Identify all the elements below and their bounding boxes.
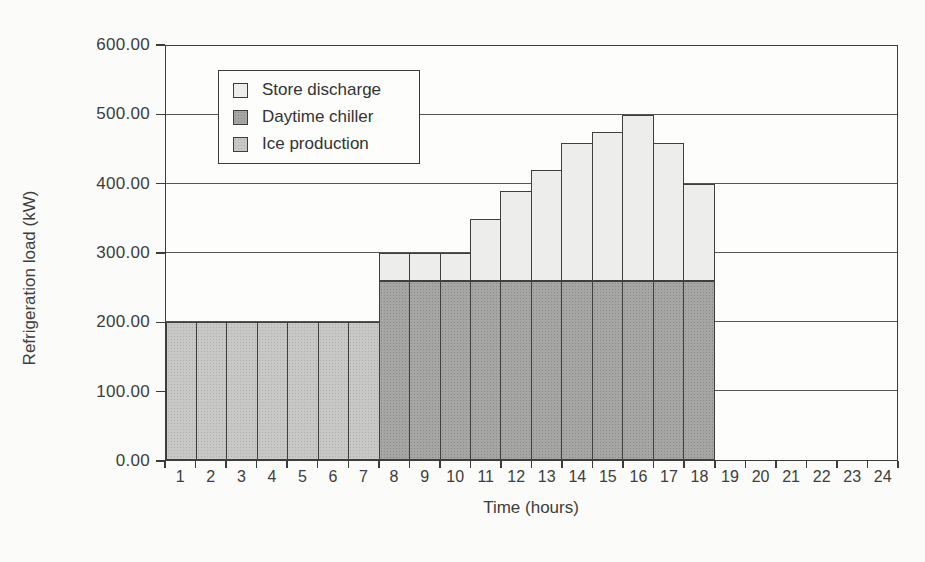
x-tick-18 — [714, 461, 716, 468]
x-tick-7 — [378, 461, 380, 468]
legend-label: Store discharge — [262, 80, 381, 100]
bar-hour-20 — [745, 46, 775, 460]
bar-segment-daytime-chiller — [409, 281, 440, 460]
x-tick-label-5: 5 — [298, 468, 307, 486]
bar-hour-18 — [684, 46, 714, 460]
bar-segment-daytime-chiller — [531, 281, 562, 460]
y-tick-100 — [156, 391, 165, 393]
x-tick-4 — [286, 461, 288, 468]
x-tick-label-14: 14 — [568, 468, 586, 486]
x-tick-label-17: 17 — [660, 468, 678, 486]
x-tick-label-13: 13 — [538, 468, 556, 486]
store-discharge-swatch-icon — [233, 83, 248, 98]
x-tick-2 — [225, 461, 227, 468]
bar-segment-ice-production — [287, 322, 318, 460]
bar-hour-11 — [471, 46, 501, 460]
bar-hour-1 — [166, 46, 196, 460]
y-tick-500 — [156, 114, 165, 116]
y-tick-label-100: 100.00 — [96, 382, 150, 402]
legend-item-daytime-chiller: Daytime chiller — [233, 107, 409, 127]
bar-segment-daytime-chiller — [561, 281, 592, 460]
bar-segment-ice-production — [196, 322, 227, 460]
x-tick-label-15: 15 — [599, 468, 617, 486]
x-tick-24 — [897, 461, 899, 468]
bar-segment-store-discharge — [653, 143, 684, 281]
x-tick-3 — [256, 461, 258, 468]
bar-segment-daytime-chiller — [622, 281, 653, 460]
x-tick-label-9: 9 — [420, 468, 429, 486]
x-tick-label-22: 22 — [813, 468, 831, 486]
bar-segment-store-discharge — [379, 253, 410, 281]
bar-hour-15 — [592, 46, 622, 460]
bar-segment-store-discharge — [440, 253, 471, 281]
bar-segment-daytime-chiller — [440, 281, 471, 460]
y-tick-label-200: 200.00 — [96, 312, 150, 332]
x-tick-label-1: 1 — [176, 468, 185, 486]
x-tick-17 — [683, 461, 685, 468]
y-axis-title: Refrigeration load (kW) — [20, 191, 40, 366]
y-tick-label-500: 500.00 — [96, 104, 150, 124]
bar-segment-ice-production — [226, 322, 257, 460]
bar-hour-19 — [714, 46, 744, 460]
x-tick-label-3: 3 — [237, 468, 246, 486]
y-tick-300 — [156, 252, 165, 254]
x-tick-label-4: 4 — [267, 468, 276, 486]
legend-item-ice-production: Ice production — [233, 134, 409, 154]
x-tick-label-11: 11 — [477, 468, 494, 486]
x-tick-label-2: 2 — [206, 468, 215, 486]
bar-hour-24 — [866, 46, 896, 460]
x-axis-title: Time (hours) — [483, 498, 579, 518]
y-tick-label-600: 600.00 — [96, 35, 150, 55]
bar-segment-ice-production — [166, 322, 197, 460]
bar-segment-daytime-chiller — [592, 281, 623, 460]
x-tick-label-6: 6 — [329, 468, 338, 486]
legend-item-store-discharge: Store discharge — [233, 80, 409, 100]
x-tick-6 — [348, 461, 350, 468]
bar-segment-store-discharge — [531, 170, 562, 280]
x-tick-22 — [836, 461, 838, 468]
bar-hour-21 — [775, 46, 805, 460]
bar-segment-store-discharge — [622, 115, 653, 281]
bar-hour-22 — [806, 46, 836, 460]
x-tick-8 — [409, 461, 411, 468]
x-tick-5 — [317, 461, 319, 468]
x-tick-label-24: 24 — [874, 468, 892, 486]
bar-segment-daytime-chiller — [500, 281, 531, 460]
y-tick-600 — [156, 44, 165, 46]
x-tick-label-7: 7 — [359, 468, 368, 486]
bar-segment-daytime-chiller — [653, 281, 684, 460]
bar-hour-23 — [836, 46, 866, 460]
bar-segment-ice-production — [348, 322, 379, 460]
x-tick-label-20: 20 — [752, 468, 770, 486]
legend-label: Daytime chiller — [262, 107, 373, 127]
daytime-chiller-swatch-icon — [233, 110, 248, 125]
x-tick-23 — [867, 461, 869, 468]
bar-hour-14 — [562, 46, 592, 460]
x-tick-1 — [195, 461, 197, 468]
x-tick-label-23: 23 — [843, 468, 861, 486]
bar-hour-13 — [531, 46, 561, 460]
x-tick-label-19: 19 — [721, 468, 739, 486]
y-tick-400 — [156, 183, 165, 185]
bar-segment-ice-production — [318, 322, 349, 460]
x-tick-10 — [470, 461, 472, 468]
bar-segment-daytime-chiller — [470, 281, 501, 460]
bar-segment-store-discharge — [561, 143, 592, 281]
x-tick-21 — [806, 461, 808, 468]
bar-segment-daytime-chiller — [379, 281, 410, 460]
y-tick-label-0: 0.00 — [116, 451, 150, 471]
x-tick-label-16: 16 — [629, 468, 647, 486]
x-tick-12 — [531, 461, 533, 468]
bar-segment-ice-production — [257, 322, 288, 460]
bar-segment-store-discharge — [470, 219, 501, 281]
x-tick-15 — [622, 461, 624, 468]
x-tick-label-21: 21 — [782, 468, 800, 486]
bar-segment-store-discharge — [683, 184, 714, 281]
x-tick-0 — [164, 461, 166, 468]
x-tick-9 — [439, 461, 441, 468]
bar-hour-10 — [440, 46, 470, 460]
ice-production-swatch-icon — [233, 137, 248, 152]
bar-segment-store-discharge — [409, 253, 440, 281]
bar-hour-12 — [501, 46, 531, 460]
x-tick-label-10: 10 — [446, 468, 464, 486]
